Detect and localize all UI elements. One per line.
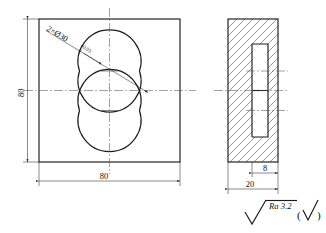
hole-tolerance-lower: 0	[77, 47, 83, 54]
surface-finish-generic-tick-icon	[303, 200, 318, 220]
surface-finish-note: Ra 3.2 ( )	[245, 200, 321, 224]
surface-finish-tick-icon	[245, 200, 266, 224]
open-paren-label: (	[297, 209, 301, 222]
engineering-drawing-svg: 2×Ø30 +0.03 0 80 80	[0, 0, 326, 233]
section-hatching	[200, 0, 300, 233]
ra-value-label: Ra 3.2	[268, 201, 292, 211]
technical-drawing-canvas: 2×Ø30 +0.03 0 80 80	[0, 0, 326, 233]
section-view: 8 20	[200, 0, 300, 233]
hole-note-label: 2×Ø30	[45, 24, 70, 44]
plate-height-label: 80	[17, 89, 26, 97]
front-view: 2×Ø30 +0.03 0 80 80	[17, 8, 196, 186]
thickness-label: 20	[246, 180, 254, 189]
hole-leader-arrow-upper	[84, 53, 99, 62]
plate-width-label: 80	[100, 172, 108, 181]
close-paren-label: )	[317, 209, 321, 222]
vertical-dimension-group: 80	[17, 89, 26, 97]
pocket-depth-label: 8	[263, 164, 267, 173]
